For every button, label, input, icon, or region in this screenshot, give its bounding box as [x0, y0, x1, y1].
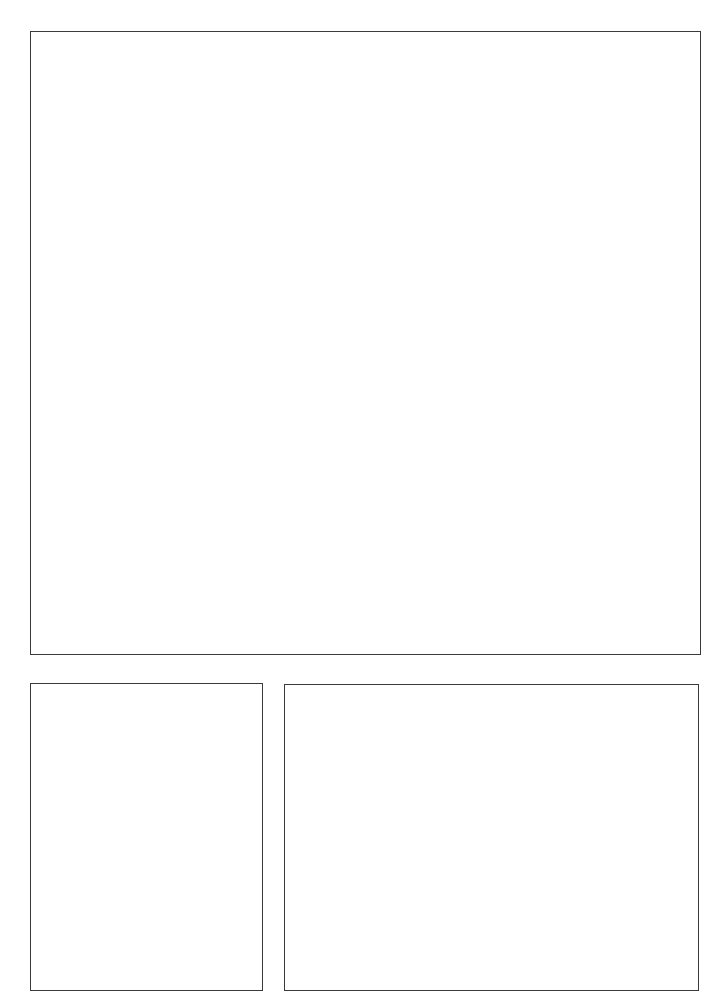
- panel-bottom-right: [284, 684, 699, 991]
- panel-bottom-left: [30, 683, 263, 991]
- panel-top: [30, 31, 701, 655]
